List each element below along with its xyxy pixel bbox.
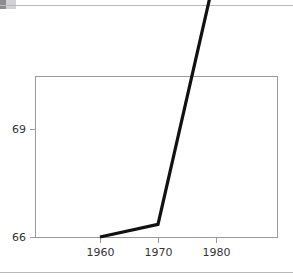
xtick-label-1980: 1980 [196, 247, 237, 258]
ytick-label-69: 69 [6, 124, 26, 135]
ytick-label-66: 66 [6, 232, 26, 243]
data-series-line [100, 0, 216, 237]
xtick-label-1970: 1970 [138, 247, 179, 258]
plot-frame [36, 77, 278, 238]
line-chart: 69 66 1960 1970 1980 [0, 0, 293, 280]
figure-canvas: 69 66 1960 1970 1980 [0, 0, 293, 280]
xtick-label-1960: 1960 [80, 247, 121, 258]
chart-svg [0, 0, 293, 280]
